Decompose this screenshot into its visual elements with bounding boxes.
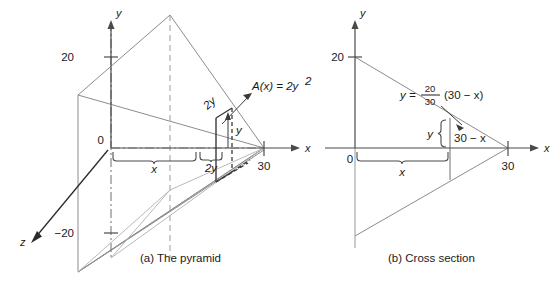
panel-b-segment-label: 30 − x: [454, 132, 486, 144]
panel-b-group: y x 20 0 30 y = 20 30 (30 − x) y 30 − x …: [325, 7, 550, 264]
area-leader-head: [243, 93, 252, 100]
panel-b-x-brace-path: [357, 152, 448, 164]
area-formula-exponent: 2: [304, 75, 312, 87]
panel-b-tick-20: 20: [331, 51, 344, 63]
width-2y-brace: [200, 152, 222, 162]
cross-section-slab-dashed: [216, 108, 250, 182]
panel-b-distance-brace: [357, 152, 448, 164]
base-edge-upper-diag: [78, 95, 264, 148]
panel-a-y-axis: [104, 20, 118, 233]
equation-denominator: 30: [425, 96, 436, 107]
panel-a-caption: (a) The pyramid: [140, 252, 221, 264]
area-leader-line: [222, 96, 249, 124]
panel-a-height-y-label: y: [235, 124, 243, 136]
panel-b-y-axis-arrowhead: [352, 20, 359, 29]
panel-a-width-2y-top: 2y: [200, 94, 219, 113]
pyramid-edge-apex-right-top: [170, 15, 264, 148]
equation-rhs: (30 − x): [444, 89, 483, 101]
panel-a-z-axis-label: z: [19, 236, 26, 248]
panel-b-y-axis-label: y: [359, 7, 367, 19]
inner-edge-a: [111, 148, 264, 258]
slab-diag-lower2: [232, 160, 250, 172]
base-edge-left-top: [78, 15, 170, 95]
panel-a-tick-neg20: −20: [54, 227, 74, 239]
equation-numerator: 20: [425, 83, 436, 94]
panel-a-tick-30: 30: [258, 160, 271, 172]
panel-b-x-axis-arrowhead: [530, 145, 539, 152]
area-formula-text: A(x) = 2y: [251, 80, 300, 92]
panel-b-distance-x-label: x: [398, 166, 406, 178]
panel-b-tick-30: 30: [502, 160, 515, 172]
area-formula-label: A(x) = 2y 2: [251, 75, 312, 92]
panel-b-height-y-label: y: [426, 128, 434, 140]
panel-b-x-axis-label: x: [543, 142, 550, 154]
panel-a-x-axis-label: x: [304, 142, 311, 154]
panel-a-group: y x z 20 −20 0 30 A(x) = 2y 2 x 2y 2y y …: [19, 7, 312, 272]
y-axis-arrowhead: [108, 20, 115, 29]
area-label-leader: [222, 93, 252, 124]
panel-a-x-axis: [111, 141, 300, 156]
panel-b-caption: (b) Cross section: [388, 252, 475, 264]
panel-a-tick-20: 20: [61, 51, 74, 63]
equation-leader: [441, 106, 464, 131]
panel-b-tick-origin: 0: [347, 153, 353, 165]
x-axis-arrowhead: [291, 145, 300, 152]
z-axis-line: [35, 150, 108, 238]
z-axis-arrowhead: [31, 231, 42, 243]
panel-b-y-axis: [348, 20, 362, 148]
panel-a-distance-x-label: x: [150, 163, 158, 175]
equation-leader-head: [456, 124, 464, 131]
panel-a-tick-origin: 0: [98, 134, 104, 146]
figure-svg: y x z 20 −20 0 30 A(x) = 2y 2 x 2y 2y y …: [0, 0, 558, 289]
line-equation-label: y = 20 30 (30 − x): [399, 83, 483, 107]
width-brace-path: [200, 152, 222, 162]
panel-a-width-2y-bottom: 2y: [204, 162, 218, 174]
panel-a-y-axis-label: y: [115, 7, 123, 19]
inner-edge-b: [111, 190, 170, 258]
equation-lhs: y =: [399, 89, 416, 101]
panel-b-height-brace: [438, 120, 446, 147]
math-figure: y x z 20 −20 0 30 A(x) = 2y 2 x 2y 2y y …: [0, 0, 558, 289]
panel-b-y-brace-path: [438, 120, 446, 147]
equation-leader-line: [441, 106, 462, 125]
